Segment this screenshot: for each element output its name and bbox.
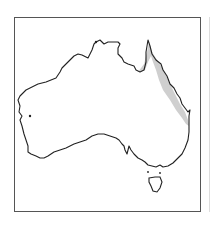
island — [147, 171, 149, 173]
tasmania-outline — [149, 177, 162, 192]
island — [95, 41, 97, 43]
island — [159, 172, 161, 174]
island — [29, 115, 31, 117]
mainland-outline — [18, 40, 190, 167]
australia-map — [0, 0, 214, 226]
